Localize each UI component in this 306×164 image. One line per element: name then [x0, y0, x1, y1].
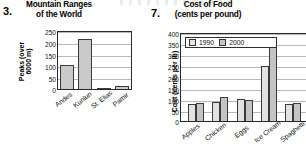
bar-group-spaghetti	[281, 34, 305, 121]
bar-chicken-1990	[212, 102, 220, 121]
problem-7: 7. Cost of Food (cents per pound) Cost (…	[153, 0, 306, 164]
x-label-cell: Eggs	[231, 124, 257, 125]
legend-item-2000: 2000	[219, 39, 244, 46]
y-tick-label: 50	[49, 76, 58, 83]
bar-group-kunlun	[76, 32, 94, 89]
bar-ice-cream-2000	[269, 41, 277, 122]
bar-series-3	[58, 32, 131, 89]
y-tick-label: 250	[45, 29, 58, 36]
y-tick-label: 300	[168, 53, 181, 60]
y-tick-label: 50	[172, 108, 181, 115]
y-axis-label-3-line2: 6000 m)	[25, 36, 32, 88]
legend-item-1990: 1990	[189, 39, 214, 46]
x-label-cell: Pamir	[113, 92, 132, 93]
legend-label-2000: 2000	[229, 39, 244, 46]
y-tick-label: 100	[45, 64, 58, 71]
x-label-cell: Apples	[180, 124, 206, 125]
y-tick-label: 150	[45, 52, 58, 59]
legend-swatch-1990-icon	[189, 39, 196, 46]
y-tick-label: 100	[168, 97, 181, 104]
bar-spaghetti-1990	[285, 104, 293, 121]
bar-group-pamir	[113, 32, 131, 89]
bar-group-andes	[58, 32, 76, 89]
x-label-cell: St. Elias	[95, 92, 114, 93]
x-axis-labels-7: Apples Chicken Eggs Ice Cream	[180, 124, 306, 125]
bar-andes	[60, 65, 74, 89]
bar-eggs-1990	[237, 99, 245, 121]
bar-apples-1990	[188, 104, 196, 121]
y-axis-label-3-text1: Peaks (over	[18, 42, 25, 81]
x-label-cell: Andes	[57, 92, 76, 93]
y-tick-label: 400	[168, 31, 181, 38]
bar-kunlun	[78, 39, 92, 89]
y-tick-label: 150	[168, 86, 181, 93]
problem-3: 3. Mountain Ranges of the World Peaks (o…	[0, 0, 153, 164]
bar-spaghetti-2000	[293, 103, 301, 121]
chart-3: Peaks (over 6000 m) 250 200 150 100	[0, 0, 153, 164]
plot-area-3: 250 200 150 100 50 0	[57, 31, 132, 90]
bar-eggs-2000	[245, 100, 253, 121]
y-tick-label: 200	[45, 40, 58, 47]
x-label-cell: Spaghetti	[282, 124, 306, 125]
x-label-cell: Kunlun	[76, 92, 95, 93]
y-tick-label: 250	[168, 64, 181, 71]
legend-label-1990: 1990	[199, 39, 214, 46]
x-axis-labels-3: Andes Kunlun St. Elias Pamir	[57, 92, 132, 93]
y-axis-label-3-line1: Peaks (over	[18, 36, 25, 88]
y-tick-label: 350	[168, 42, 181, 49]
bar-ice-cream-1990	[261, 66, 269, 121]
bar-group-st-elias	[95, 32, 113, 89]
chart-7: Cost (cents per lb) 400 350 300 250 200	[153, 0, 306, 164]
worksheet-page: 3. Mountain Ranges of the World Peaks (o…	[0, 0, 306, 164]
y-tick-label: 200	[168, 75, 181, 82]
legend-swatch-2000-icon	[219, 39, 226, 46]
y-axis-label-3-text2: 6000 m)	[25, 48, 32, 74]
x-label-cell: Ice Cream	[257, 124, 283, 125]
legend-7: 1990 2000	[185, 37, 277, 48]
x-label-cell: Chicken	[206, 124, 232, 125]
plot-area-7: 400 350 300 250 200 150 100	[180, 33, 306, 122]
